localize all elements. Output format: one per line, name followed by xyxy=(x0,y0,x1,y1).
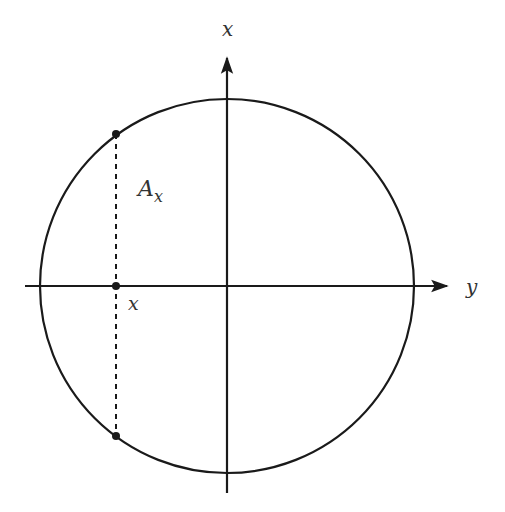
bottom-point xyxy=(112,432,120,440)
vertical-axis-label: x xyxy=(222,17,233,41)
horizontal-axis-label: y xyxy=(465,275,478,299)
axis-point xyxy=(112,282,120,290)
chord-label: Ax xyxy=(136,176,163,206)
chord-label-subscript: x xyxy=(154,187,163,206)
circle-cross-section-diagram: x y Ax x xyxy=(0,0,505,512)
point-label: x xyxy=(128,292,139,314)
top-point xyxy=(112,130,120,138)
chord-label-main: A xyxy=(136,176,154,201)
